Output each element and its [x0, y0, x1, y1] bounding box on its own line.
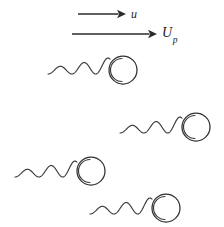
- swimmer-3-head: [77, 157, 105, 185]
- flow-velocity-label-symbol: u: [131, 7, 137, 21]
- swimmer-2: [120, 113, 210, 141]
- swimmer-1-head: [109, 56, 137, 84]
- swimmer-4-flagellum: [90, 198, 152, 214]
- swimmer-3: [15, 157, 105, 185]
- flow-velocity-arrow: [78, 10, 126, 18]
- swimmer-2-flagellum: [120, 117, 182, 133]
- swimmer-3-flagellum: [15, 161, 77, 177]
- particle-velocity-label-subscript: p: [173, 35, 178, 45]
- particle-velocity-label: Up: [162, 26, 177, 43]
- swimmer-2-head: [182, 113, 210, 141]
- flow-velocity-label: u: [131, 8, 137, 20]
- figure-canvas: [0, 0, 224, 227]
- particle-velocity-arrow: [72, 30, 157, 38]
- swimmer-4-head: [152, 194, 180, 222]
- particle-velocity-label-symbol: U: [162, 25, 172, 40]
- swimmer-4: [90, 194, 180, 222]
- swimmer-1: [48, 56, 137, 84]
- swimmer-schematic-figure: u Up: [0, 0, 224, 227]
- swimmer-1-flagellum: [48, 58, 110, 74]
- swimmers-group: [15, 56, 210, 222]
- velocity-arrows-group: [72, 10, 157, 38]
